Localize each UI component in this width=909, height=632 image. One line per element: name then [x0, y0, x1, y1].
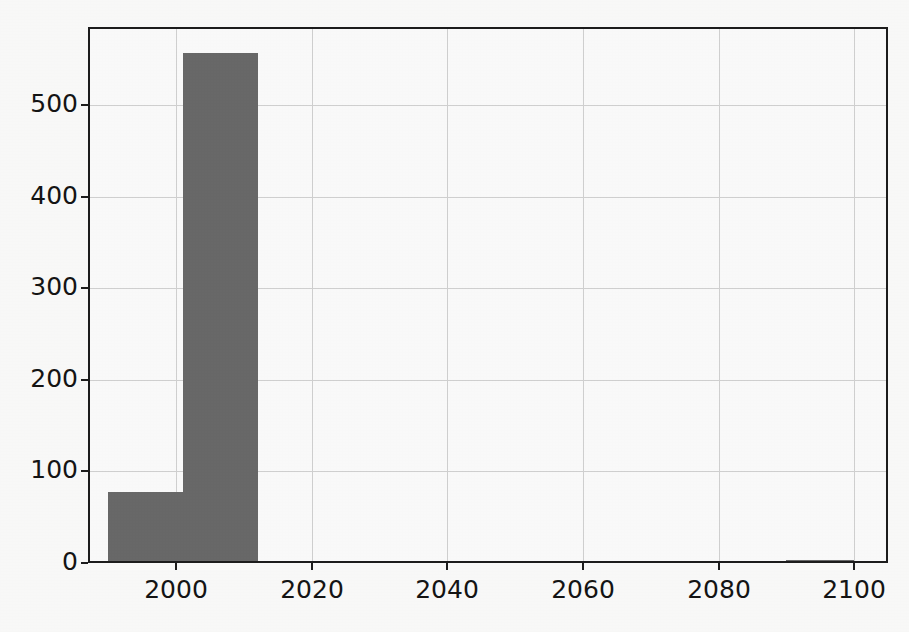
x-tick-label-2020: 2020	[267, 577, 357, 602]
x-tick-label-2100: 2100	[809, 577, 899, 602]
x-tick-label-2040: 2040	[402, 577, 492, 602]
histogram-figure: 0100200300400500 20002020204020602080210…	[0, 0, 909, 632]
x-tick-label-2000: 2000	[131, 577, 221, 602]
x-tick-label-2080: 2080	[674, 577, 764, 602]
x-axis-tick-labels: 200020202040206020802100	[0, 0, 909, 632]
x-tick-label-2060: 2060	[538, 577, 628, 602]
